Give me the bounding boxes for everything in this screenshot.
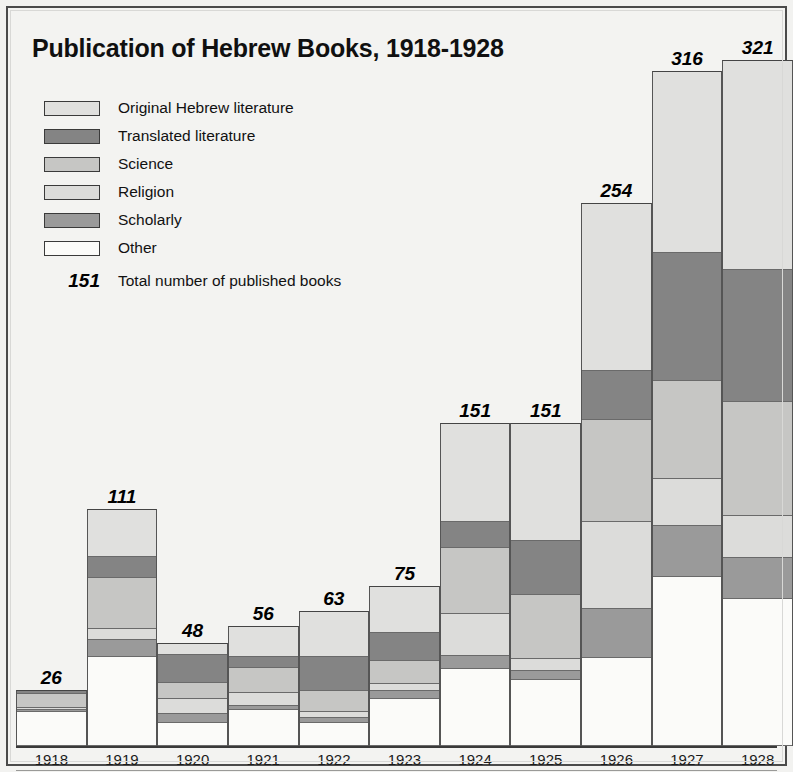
bar-segment <box>158 723 227 746</box>
bar-value-label: 151 <box>511 401 580 424</box>
bar-segment <box>441 614 510 657</box>
bar-value-label: 111 <box>88 487 157 510</box>
bar-segment <box>653 253 722 381</box>
bar-1922: 63 <box>299 611 370 746</box>
bar-value-label: 75 <box>370 564 439 587</box>
bar-segment <box>511 424 580 541</box>
bar-segment <box>158 683 227 700</box>
bar-segment <box>723 270 792 402</box>
bar-1918: 26 <box>16 690 87 746</box>
bar-segment <box>653 72 722 253</box>
bar-value-label: 321 <box>723 38 792 61</box>
bar-segment <box>229 657 298 668</box>
bar-1925: 151 <box>510 423 581 746</box>
bar-segment <box>723 516 792 559</box>
bar-segment <box>229 693 298 706</box>
bar-segment <box>158 699 227 714</box>
x-axis-labels: 1918191919201921192219231924192519261927… <box>16 749 793 772</box>
bar-value-label: 316 <box>653 49 722 72</box>
x-axis-tick-1925: 1925 <box>510 749 581 772</box>
bar-segment <box>723 61 792 270</box>
bar-segment <box>723 599 792 746</box>
chart-page: Publication of Hebrew Books, 1918-1928 O… <box>0 0 793 772</box>
bar-segment <box>582 371 651 420</box>
bar-segment <box>441 669 510 746</box>
bar-1924: 151 <box>440 423 511 746</box>
bar-value-label: 151 <box>441 401 510 424</box>
bar-segment <box>370 633 439 661</box>
bar-segment <box>370 661 439 684</box>
bar-segment <box>723 558 792 599</box>
bar-segment <box>511 680 580 746</box>
bar-segment <box>582 658 651 745</box>
bar-segment <box>441 656 510 669</box>
bar-segment <box>441 548 510 614</box>
bar-segment <box>441 522 510 548</box>
plot-area: 2611148566375151151254316321 <box>16 28 793 746</box>
x-axis-tick-1921: 1921 <box>228 749 299 772</box>
bar-segment <box>723 402 792 515</box>
bar-segment <box>229 627 298 657</box>
bar-segment <box>511 595 580 659</box>
bar-value-label: 63 <box>300 589 369 612</box>
chart-frame: Publication of Hebrew Books, 1918-1928 O… <box>6 6 787 766</box>
bar-segment <box>582 522 651 609</box>
bar-segment <box>158 714 227 722</box>
bar-segment <box>17 712 86 746</box>
bar-1919: 111 <box>87 509 158 746</box>
bar-segment <box>88 657 157 746</box>
bar-segment <box>300 612 369 657</box>
bar-segment <box>300 657 369 691</box>
bar-segment <box>653 577 722 746</box>
bar-segment <box>370 587 439 634</box>
bar-1928: 321 <box>722 60 793 746</box>
bar-value-label: 48 <box>158 621 227 644</box>
bar-segment <box>441 424 510 522</box>
bar-segment <box>88 578 157 629</box>
bar-segment <box>653 526 722 577</box>
x-axis-tick-1922: 1922 <box>299 749 370 772</box>
bar-1926: 254 <box>581 203 652 746</box>
bar-1923: 75 <box>369 586 440 746</box>
bar-segment <box>582 420 651 522</box>
bar-segment <box>300 691 369 712</box>
bar-1920: 48 <box>157 643 228 746</box>
x-axis-tick-1928: 1928 <box>722 749 793 772</box>
x-axis-tick-1920: 1920 <box>157 749 228 772</box>
bar-segment <box>582 609 651 658</box>
x-axis-tick-1918: 1918 <box>16 749 87 772</box>
bar-segment <box>158 655 227 683</box>
bar-segment <box>511 659 580 672</box>
bar-segment <box>300 723 369 746</box>
bar-value-label: 56 <box>229 604 298 627</box>
bar-segment <box>88 629 157 640</box>
x-axis-tick-1923: 1923 <box>369 749 440 772</box>
bar-segment <box>88 557 157 578</box>
bar-segment <box>370 699 439 746</box>
bar-1927: 316 <box>652 71 723 746</box>
bar-segment <box>88 510 157 557</box>
bar-value-label: 26 <box>17 668 86 691</box>
bar-segment <box>582 204 651 370</box>
x-axis-line <box>16 746 777 748</box>
bar-segment <box>653 381 722 479</box>
bar-segment <box>17 694 86 709</box>
x-axis-tick-1926: 1926 <box>581 749 652 772</box>
x-axis-tick-1924: 1924 <box>440 749 511 772</box>
bar-segment <box>88 640 157 657</box>
bar-segment <box>370 691 439 699</box>
bar-segment <box>229 710 298 746</box>
bar-segment <box>511 671 580 680</box>
bar-segment <box>653 479 722 526</box>
bar-value-label: 254 <box>582 181 651 204</box>
x-axis-tick-1919: 1919 <box>87 749 158 772</box>
bar-1921: 56 <box>228 626 299 746</box>
bar-segment <box>229 668 298 693</box>
bar-segment <box>511 541 580 594</box>
x-axis-tick-1927: 1927 <box>652 749 723 772</box>
bar-segment <box>158 644 227 655</box>
